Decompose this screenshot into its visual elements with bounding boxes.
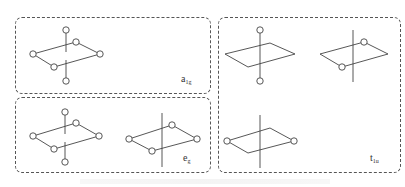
t1u-octahedron-z (225, 27, 295, 84)
eg-octahedron-1 (30, 109, 102, 165)
label-a1g: a1g (181, 73, 191, 85)
label-sub: g (187, 158, 190, 164)
orbital-diagrams (0, 0, 405, 187)
label-sub: 1g (185, 79, 191, 85)
label-sub: 1u (373, 158, 379, 164)
label-eg: eg (183, 152, 190, 164)
a1g-octahedron (30, 27, 103, 84)
figure-caption (80, 179, 330, 184)
t1u-octahedron-y (320, 30, 388, 82)
label-t1u: t1u (370, 152, 379, 164)
t1u-octahedron-x (224, 115, 297, 168)
